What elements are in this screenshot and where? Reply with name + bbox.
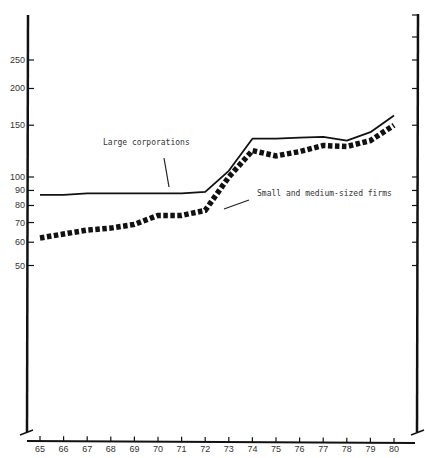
x-tick-label: 73 bbox=[224, 444, 234, 454]
series-lines bbox=[40, 115, 394, 238]
y-tick-label: 200 bbox=[10, 83, 25, 93]
annotation-large-corporations: Large corporations bbox=[103, 138, 190, 147]
x-tick-label: 68 bbox=[106, 444, 116, 454]
x-tick-label: 77 bbox=[318, 444, 328, 454]
x-axis-ticks: 65666768697071727374757677787980 bbox=[35, 436, 399, 454]
annotations: Large corporationsSmall and medium-sized… bbox=[103, 138, 392, 209]
x-tick-label: 80 bbox=[389, 444, 399, 454]
x-tick-label: 65 bbox=[35, 444, 45, 454]
x-tick-label: 71 bbox=[177, 444, 187, 454]
axes bbox=[20, 14, 424, 443]
x-tick-label: 78 bbox=[342, 444, 352, 454]
line-chart: 5060708090100150200250 65666768697071727… bbox=[0, 0, 425, 458]
annotation-small-medium-firms: Small and medium-sized firms bbox=[257, 189, 392, 198]
y-tick-label: 100 bbox=[10, 172, 25, 182]
series-large-corporations bbox=[40, 115, 394, 194]
x-axis bbox=[27, 441, 415, 443]
x-tick-label: 72 bbox=[200, 444, 210, 454]
y-tick-label: 50 bbox=[15, 261, 25, 271]
x-tick-label: 74 bbox=[247, 444, 257, 454]
x-tick-label: 79 bbox=[365, 444, 375, 454]
x-tick-label: 76 bbox=[295, 444, 305, 454]
x-tick-label: 67 bbox=[82, 444, 92, 454]
x-tick-label: 70 bbox=[153, 444, 163, 454]
x-tick-label: 69 bbox=[129, 444, 139, 454]
y-tick-label: 150 bbox=[10, 120, 25, 130]
x-tick-label: 66 bbox=[59, 444, 69, 454]
y-tick-label: 70 bbox=[15, 218, 25, 228]
x-tick-label: 75 bbox=[271, 444, 281, 454]
arrow-icon bbox=[164, 158, 169, 187]
y-tick-label: 60 bbox=[15, 237, 25, 247]
arrow-icon bbox=[224, 200, 249, 209]
left-axis bbox=[27, 15, 28, 432]
y-tick-label: 80 bbox=[15, 200, 25, 210]
y-tick-label: 250 bbox=[10, 55, 25, 65]
y-tick-label: 90 bbox=[15, 185, 25, 195]
